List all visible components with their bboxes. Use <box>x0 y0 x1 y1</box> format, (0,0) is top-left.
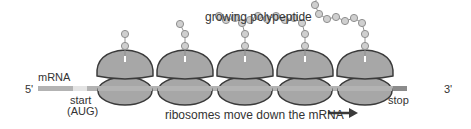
polypeptide-title: growing polypeptide <box>205 11 312 23</box>
amino-acid-bead <box>301 30 308 37</box>
stop-label: stop <box>388 95 409 106</box>
mrna-label: mRNA <box>38 72 70 83</box>
three-prime-label: 3' <box>444 84 452 95</box>
amino-acid-bead <box>358 19 365 26</box>
amino-acid-bead <box>341 17 348 24</box>
caption: ribosomes move down the mRNA <box>165 109 344 121</box>
amino-acid-bead <box>315 10 322 17</box>
start-codon-label: (AUG) <box>67 106 98 117</box>
amino-acid-bead <box>361 42 368 49</box>
amino-acid-bead <box>361 30 368 37</box>
stop-codon-region <box>393 86 407 91</box>
amino-acid-bead <box>301 42 308 49</box>
amino-acid-bead <box>241 30 248 37</box>
amino-acid-bead <box>181 42 188 49</box>
amino-acid-bead <box>121 42 128 49</box>
amino-acid-bead <box>311 1 318 8</box>
start-codon-region <box>73 86 87 91</box>
amino-acid-bead <box>121 30 128 37</box>
amino-acid-bead <box>241 42 248 49</box>
amino-acid-bead <box>323 15 330 22</box>
amino-acid-bead <box>181 30 188 37</box>
amino-acid-bead <box>332 13 339 20</box>
amino-acid-bead <box>350 14 357 21</box>
amino-acid-bead <box>176 20 183 27</box>
five-prime-label: 5' <box>25 84 33 95</box>
